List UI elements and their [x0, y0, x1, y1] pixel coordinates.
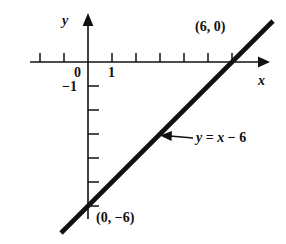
x-axis-ticks-negative: [40, 53, 64, 62]
equation-equals: =: [202, 130, 217, 145]
equation-minus: −: [224, 130, 239, 145]
x-tick-label-one: 1: [108, 66, 115, 80]
x-axis-arrowhead: [258, 57, 270, 68]
equation-leader-line: [160, 131, 193, 141]
y-axis-ticks: [88, 86, 99, 206]
x-axis-ticks-positive: [112, 53, 232, 62]
x-intercept-label: (6, 0): [195, 20, 225, 34]
plotted-line: [61, 21, 273, 233]
y-intercept-label: (0, −6): [96, 211, 134, 225]
coordinate-plane-drawing: [0, 0, 286, 244]
equation-label: y = x − 6: [196, 131, 246, 145]
equation-six: 6: [239, 130, 246, 145]
y-tick-label-negative-one: −1: [62, 80, 77, 94]
x-axis-label: x: [258, 74, 265, 88]
y-axis-label: y: [62, 14, 68, 28]
y-axis: [83, 13, 94, 219]
origin-tick-label: 0: [74, 66, 81, 80]
y-axis-arrowhead: [83, 13, 94, 26]
graph-figure: y x 0 1 −1 (6, 0) (0, −6) y = x − 6: [0, 0, 286, 244]
